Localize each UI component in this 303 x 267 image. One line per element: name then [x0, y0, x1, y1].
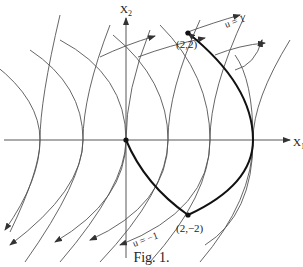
- curve-label-u-minus-one: u = −1: [131, 230, 159, 249]
- point-label-2-neg2: (2,−2): [176, 222, 204, 235]
- phase-plane-figure: X2 X1 (2,2) (2,−2) u = 1 u = −1 Fig. 1.: [0, 0, 303, 267]
- phase-plane-svg: X2 X1 (2,2) (2,−2) u = 1 u = −1: [0, 0, 303, 267]
- point-2-neg2: [185, 212, 190, 217]
- point-2-2: [185, 30, 190, 35]
- x2-axis-label: X2: [120, 3, 132, 18]
- x1-axis-label: X1: [293, 136, 303, 151]
- point-label-2-2: (2,2): [176, 38, 197, 51]
- figure-caption: Fig. 1.: [0, 250, 303, 266]
- origin-point: [123, 137, 128, 142]
- curve-family-u-minus-one: [5, 15, 290, 245]
- curve-label-u-plus-one: u = 1: [223, 12, 246, 29]
- optimal-trajectory: [126, 33, 253, 215]
